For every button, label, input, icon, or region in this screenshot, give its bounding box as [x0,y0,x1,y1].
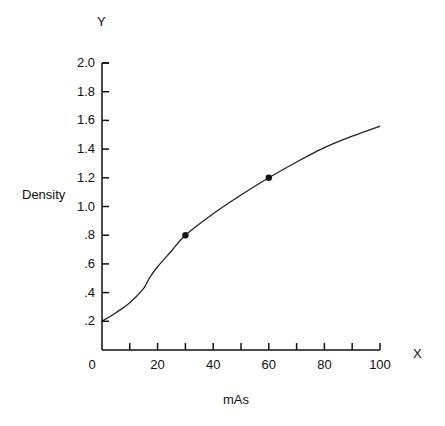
y-tick-label: 1.6 [55,112,95,127]
data-point [182,232,188,238]
y-tick-label: .2 [55,313,95,328]
y-tick-label: 1.2 [55,170,95,185]
y-tick-label: 1.8 [55,84,95,99]
y-tick-label: 2.0 [55,55,95,70]
x-axis-letter: X [413,346,422,361]
x-tick-label: 60 [249,357,289,372]
x-tick-label: 100 [360,357,400,372]
y-ticks [102,63,109,321]
x-tick-label: 0 [72,357,112,372]
y-tick-label: .8 [55,227,95,242]
data-point [266,175,272,181]
density-curve [102,126,380,321]
y-axis-letter: Y [97,14,106,29]
x-ticks [130,343,380,350]
x-tick-label: 40 [193,357,233,372]
x-axis-label: mAs [223,392,249,407]
y-tick-label: 1.0 [55,199,95,214]
y-tick-label: 1.4 [55,141,95,156]
y-tick-label: .6 [55,256,95,271]
y-tick-label: .4 [55,285,95,300]
x-tick-label: 20 [138,357,178,372]
x-tick-label: 80 [304,357,344,372]
